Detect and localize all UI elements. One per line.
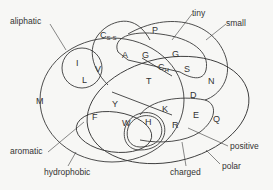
aa-G-small: G xyxy=(172,49,179,59)
label-polar: polar xyxy=(222,161,241,171)
aa-W: W xyxy=(122,118,131,128)
label-hydrophobic: hydrophobic xyxy=(44,167,91,177)
label-charged: charged xyxy=(170,167,201,177)
label-aromatic: aromatic xyxy=(10,146,43,156)
aa-R: R xyxy=(172,120,179,130)
pointer-tiny xyxy=(172,14,192,40)
label-tiny: tiny xyxy=(192,8,206,18)
aa-D: D xyxy=(190,90,197,100)
aa-T: T xyxy=(146,76,152,86)
pointer-hydrophobic xyxy=(68,152,76,166)
aa-F: F xyxy=(92,112,98,122)
aa-Ch: CH xyxy=(158,62,169,73)
pointer-charged xyxy=(182,142,186,166)
aa-A: A xyxy=(122,50,128,60)
aa-Y: Y xyxy=(112,99,118,109)
pointer-polar xyxy=(206,150,220,164)
aa-L: L xyxy=(82,75,87,85)
aa-K: K xyxy=(162,104,168,114)
aa-H: H xyxy=(145,117,152,127)
aa-M: M xyxy=(36,96,44,106)
aa-S: S xyxy=(184,64,190,74)
aa-I: I xyxy=(76,58,79,68)
pointer-small xyxy=(206,24,226,40)
aa-Q: Q xyxy=(213,114,220,124)
venn-diagram: aliphatic tiny small aromatic hydrophobi… xyxy=(0,0,273,190)
label-small: small xyxy=(226,18,246,28)
pointer-aliphatic xyxy=(50,24,66,50)
aa-V: V xyxy=(95,64,101,74)
pointer-positive xyxy=(188,128,228,146)
label-positive: positive xyxy=(230,141,259,151)
aa-G-tiny: G xyxy=(142,50,149,60)
aa-Css: CS-S xyxy=(100,30,117,41)
label-aliphatic: aliphatic xyxy=(10,16,42,26)
aa-N: N xyxy=(208,76,215,86)
aa-E: E xyxy=(193,110,199,120)
aa-P: P xyxy=(152,25,158,35)
